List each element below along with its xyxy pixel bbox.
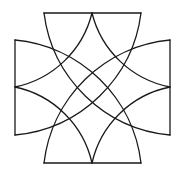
geometric-figure <box>0 0 178 178</box>
arc-top-left-end <box>44 13 170 135</box>
arc-left-top-end <box>15 40 141 163</box>
arc-top-right-end <box>15 13 141 135</box>
figure-svg <box>0 0 178 178</box>
arc-right-top-end <box>44 40 170 163</box>
